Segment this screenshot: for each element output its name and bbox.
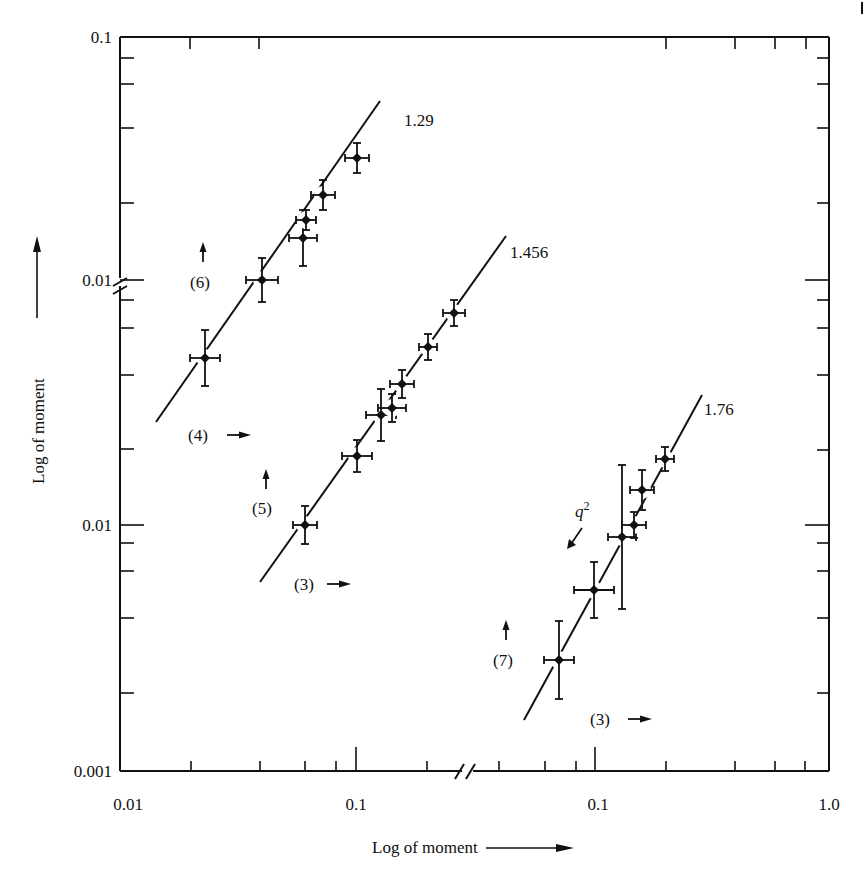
data-point — [311, 180, 335, 210]
data-point — [296, 210, 316, 230]
annotation-label: (3) — [294, 575, 314, 594]
annotation: (7) — [493, 620, 513, 670]
data-point — [246, 258, 278, 302]
y-tick-label: 0.01 — [82, 516, 112, 535]
y-tick-label: 0.01 — [82, 271, 112, 290]
y-tick-label: 0.001 — [74, 762, 112, 781]
tick-labels: 0.10.010.010.0010.010.10.11.0 — [74, 28, 840, 814]
q-squared-annotation: q2 — [567, 499, 590, 549]
data-point — [630, 470, 654, 510]
data-point — [293, 506, 317, 544]
annotation: (6) — [190, 242, 210, 292]
q-squared-label: q2 — [575, 499, 590, 521]
data-point — [443, 300, 465, 326]
annotation-label: (4) — [188, 426, 208, 445]
data-point — [342, 440, 372, 472]
data-points — [190, 143, 674, 699]
fit-line — [156, 101, 380, 422]
data-point — [544, 621, 574, 699]
annotation: (3) — [590, 710, 652, 729]
x-tick-label: 1.0 — [818, 795, 839, 814]
x-tick-label: 0.01 — [113, 795, 143, 814]
annotation: (4) — [188, 426, 251, 445]
y-tick-label: 0.1 — [91, 28, 112, 47]
annotation-label: (3) — [590, 710, 610, 729]
annotation: (3) — [294, 575, 351, 594]
x-tick-label: 0.1 — [587, 795, 608, 814]
fit-line — [524, 395, 702, 720]
annotation-label: (7) — [493, 651, 513, 670]
data-point — [608, 465, 636, 609]
x-axis-title: Log of moment — [372, 838, 478, 857]
annotation-label: (5) — [252, 499, 272, 518]
data-point — [574, 562, 614, 618]
x-tick-label: 0.1 — [345, 795, 366, 814]
axis-titles: Log of momentLog of moment — [29, 2, 862, 857]
annotations: (6)(4)(5)(3)(7)(3)q2 — [188, 242, 652, 729]
slope-label: 1.29 — [404, 111, 434, 130]
annotation: (5) — [252, 469, 272, 518]
log-log-chart: 0.10.010.010.0010.010.10.11.0 1.291.4561… — [0, 0, 867, 887]
slope-label: 1.76 — [704, 400, 734, 419]
arrow-down-left-icon — [571, 528, 582, 544]
slope-label: 1.456 — [510, 243, 548, 262]
fit-lines: 1.291.4561.76 — [156, 101, 734, 720]
y-axis-title: Log of moment — [29, 378, 48, 484]
annotation-label: (6) — [190, 273, 210, 292]
